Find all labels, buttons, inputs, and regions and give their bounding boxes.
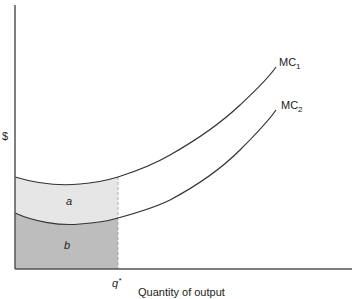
q-star-sup: * [118, 276, 122, 285]
mc1-curve [15, 67, 276, 185]
mc1-sub: 1 [296, 62, 301, 71]
mc2-sub: 2 [298, 105, 303, 114]
area-b-label: b [64, 239, 70, 251]
mc2-main: MC [281, 99, 298, 111]
area-a-label: a [66, 195, 72, 207]
mc2-label: MC2 [281, 99, 303, 114]
x-axis-label: Quantity of output [138, 286, 225, 298]
q-star-label: q* [112, 276, 122, 289]
y-axis-label: $ [2, 130, 8, 142]
mc1-main: MC [279, 56, 296, 68]
mc1-label: MC1 [279, 56, 301, 71]
mc-diagram: $ Quantity of output q* a b MC1 MC2 [0, 0, 357, 299]
